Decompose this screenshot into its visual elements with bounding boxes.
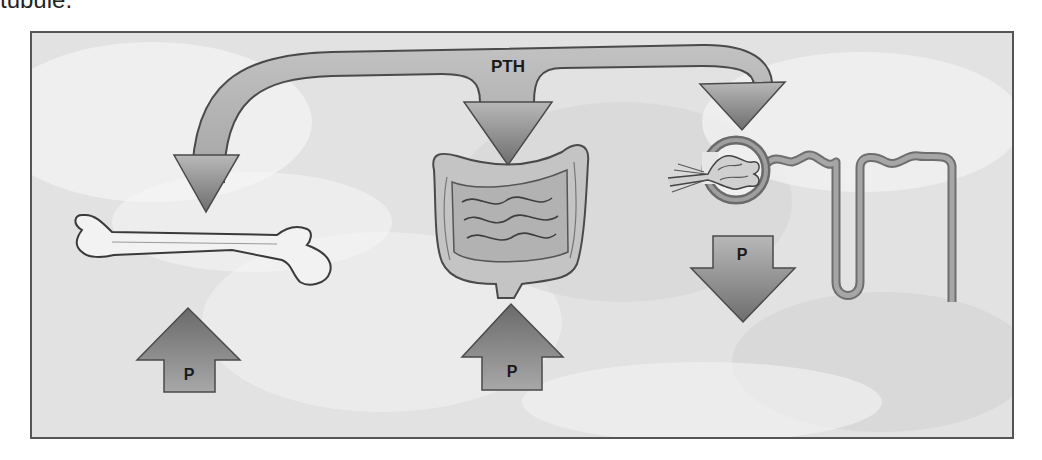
pth-label: PTH xyxy=(491,57,525,76)
intestine-illustration xyxy=(433,145,588,298)
kidney-phosphate-label: P xyxy=(737,246,748,263)
diagram-frame: PTH xyxy=(30,31,1014,439)
caption-fragment: tubule. xyxy=(0,0,72,14)
pth-phosphate-diagram: PTH xyxy=(32,33,1014,439)
bone-phosphate-label: P xyxy=(184,366,195,383)
intestine-phosphate-label: P xyxy=(507,363,518,380)
